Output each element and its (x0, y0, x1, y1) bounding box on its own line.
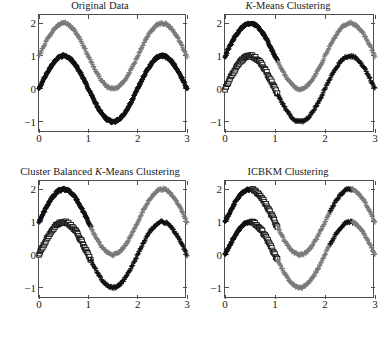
series-lower-left-open-squares (223, 53, 280, 96)
y-tick-label: 1 (217, 50, 223, 61)
x-tick-label: 3 (184, 299, 190, 310)
plot-area-icbkm-clustering: −10120123 (224, 180, 374, 298)
series-layer (39, 181, 187, 299)
x-tick-label: 0 (36, 133, 42, 144)
series-lower-right-dark-plus (275, 53, 378, 125)
y-tick-label: 0 (31, 83, 37, 94)
series-lower-right-dark-plus (88, 218, 189, 290)
series-lower-right-gray-plus (275, 242, 333, 291)
series-layer (39, 15, 187, 133)
y-tick-label: 0 (31, 249, 37, 260)
series-lower-left-dark-diamonds (223, 219, 255, 257)
series-lower-far-right-dark-plus (328, 219, 356, 247)
x-tick-label: 3 (372, 299, 378, 310)
y-tick-label: 1 (31, 216, 37, 227)
y-tick-label: −1 (24, 116, 36, 127)
y-tick-label: 2 (217, 184, 223, 195)
x-tick-label: 1 (272, 133, 278, 144)
y-tick-label: −1 (210, 116, 222, 127)
panel-k-means-clustering: K-Means Clustering−10120123 (194, 0, 382, 166)
y-tick-label: −1 (210, 282, 222, 293)
x-tick-label: 2 (322, 299, 328, 310)
panel-title-original-data: Original Data (6, 0, 194, 12)
plot-area-cluster-balanced-k-means-clustering: −10120123 (38, 180, 186, 298)
y-tick-label: 2 (217, 18, 223, 29)
y-tick-label: 2 (31, 18, 37, 29)
series-layer (225, 15, 375, 133)
y-tick-label: 1 (31, 50, 37, 61)
panel-icbkm-clustering: ICBKM Clustering−10120123 (194, 166, 382, 332)
clustering-figure: Original Data−10120123K-Means Clustering… (0, 0, 384, 337)
plot-area-k-means-clustering: −10120123 (224, 14, 374, 132)
panel-original-data: Original Data−10120123 (6, 0, 194, 166)
plot-area-original-data: −10120123 (38, 14, 186, 132)
x-tick-label: 2 (135, 133, 141, 144)
x-tick-label: 0 (36, 299, 42, 310)
y-tick-label: −1 (24, 282, 36, 293)
series-lower-left-open-squares (37, 219, 93, 262)
x-tick-label: 1 (86, 133, 92, 144)
x-tick-label: 0 (222, 299, 228, 310)
series-upper-tail-gray-plus (350, 186, 378, 224)
series-upper-left-dark-diamonds (223, 187, 255, 224)
series-lower-tail-gray-plus (350, 219, 378, 257)
panel-title-k-means-clustering: K-Means Clustering (194, 0, 382, 12)
y-tick-label: 2 (31, 184, 37, 195)
y-tick-label: 0 (217, 249, 223, 260)
series-upper-far-right-dark-plus (328, 186, 356, 213)
series-layer (225, 181, 375, 299)
x-tick-label: 0 (222, 133, 228, 144)
x-tick-label: 3 (372, 133, 378, 144)
x-tick-label: 1 (86, 299, 92, 310)
x-tick-label: 2 (322, 133, 328, 144)
panel-title-icbkm-clustering: ICBKM Clustering (194, 166, 382, 178)
y-tick-label: 0 (217, 83, 223, 94)
x-tick-label: 2 (135, 299, 141, 310)
y-tick-label: 1 (217, 216, 223, 227)
x-tick-label: 3 (184, 133, 190, 144)
panel-cluster-balanced-k-means-clustering: Cluster Balanced K-Means Clustering−1012… (6, 166, 194, 332)
panel-title-cluster-balanced-k-means-clustering: Cluster Balanced K-Means Clustering (6, 166, 194, 178)
series-upper-right-gray-plus (275, 20, 378, 93)
x-tick-label: 1 (272, 299, 278, 310)
